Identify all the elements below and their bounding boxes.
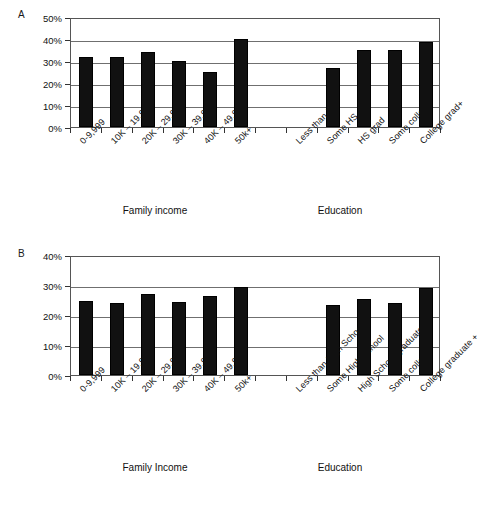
y-axis-tick-label: 50% <box>28 13 62 24</box>
y-axis-tick <box>65 62 70 63</box>
gridline <box>71 317 439 318</box>
group-caption: Education <box>318 462 362 473</box>
y-axis-tick-label: 20% <box>28 311 62 322</box>
panel-a: A 0%10%20%30%40%50%0-9,99910K – 19,99920… <box>0 0 452 240</box>
gridline <box>71 287 439 288</box>
y-axis-tick-label: 0% <box>28 371 62 382</box>
y-axis-tick <box>65 286 70 287</box>
y-axis-tick <box>65 106 70 107</box>
y-axis-tick <box>65 84 70 85</box>
y-axis-tick-label: 40% <box>28 35 62 46</box>
y-axis-tick-label: 30% <box>28 57 62 68</box>
y-axis-tick <box>65 316 70 317</box>
y-axis-tick-label: 10% <box>28 101 62 112</box>
x-axis-tick <box>255 376 256 381</box>
y-axis-tick <box>65 256 70 257</box>
x-axis-tick <box>70 128 71 133</box>
y-axis-tick <box>65 346 70 347</box>
group-caption: Family income <box>123 205 187 216</box>
y-axis-tick-label: 40% <box>28 251 62 262</box>
bar <box>110 57 124 127</box>
y-axis-tick-label: 0% <box>28 123 62 134</box>
plot-area <box>70 18 440 128</box>
y-axis-tick-label: 10% <box>28 341 62 352</box>
gridline <box>71 41 439 42</box>
panel-b: B 0%10%20%30%40%0-9,99910K – 19,99920K –… <box>0 240 452 513</box>
y-axis-tick-label: 30% <box>28 281 62 292</box>
bar <box>110 303 124 375</box>
bar <box>388 50 402 127</box>
gridline <box>71 107 439 108</box>
y-axis-tick <box>65 40 70 41</box>
bar <box>79 301 93 375</box>
x-axis-tick <box>255 128 256 133</box>
panel-a-letter: A <box>18 9 25 20</box>
gridline <box>71 85 439 86</box>
y-axis-tick-label: 20% <box>28 79 62 90</box>
x-axis-tick <box>286 128 287 133</box>
bar <box>357 50 371 127</box>
y-axis-tick <box>65 18 70 19</box>
x-axis-tick <box>286 376 287 381</box>
group-caption: Education <box>318 205 362 216</box>
gridline <box>71 347 439 348</box>
gridline <box>71 63 439 64</box>
panel-b-letter: B <box>18 248 25 259</box>
x-axis-tick <box>70 376 71 381</box>
bar <box>79 57 93 127</box>
group-caption: Family Income <box>122 462 187 473</box>
